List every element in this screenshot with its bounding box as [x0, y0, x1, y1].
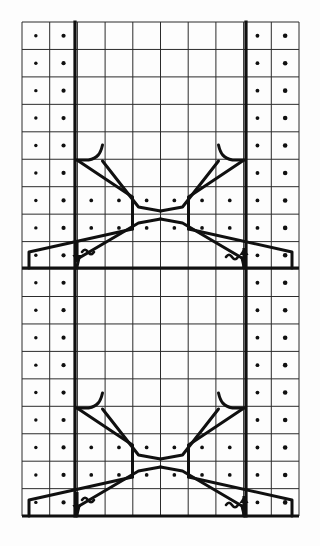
grid-dot-interior — [145, 446, 149, 450]
grid-dot-interior — [117, 473, 121, 477]
grid-dot — [256, 473, 260, 477]
grid-dot — [283, 473, 288, 478]
grid-dot — [256, 500, 260, 504]
grid-dot — [283, 171, 288, 176]
grid-dot — [256, 61, 260, 65]
grid-dot — [61, 363, 65, 367]
grid-dot-interior — [145, 473, 149, 477]
grid-dot — [61, 500, 65, 504]
grid-dot — [34, 254, 37, 257]
grid-dot — [256, 446, 260, 450]
grid-dot — [61, 390, 65, 394]
grid-dot-interior — [200, 473, 204, 477]
grid-dot — [283, 226, 288, 231]
grid-dot — [34, 34, 37, 37]
grid-dot — [61, 336, 65, 340]
grid-dot — [256, 34, 260, 38]
grid-dot — [34, 391, 37, 394]
grid-dot — [34, 418, 37, 421]
grid-dot-interior — [117, 446, 121, 450]
grid-dot-interior — [89, 226, 93, 230]
grid-dot — [256, 391, 260, 395]
grid-dot-interior — [145, 199, 149, 203]
grid-dot — [61, 281, 65, 285]
grid-dot — [283, 33, 288, 38]
grid-dot — [256, 171, 260, 175]
grid-dot — [61, 308, 65, 312]
grid-dot — [61, 418, 65, 422]
grid-dot — [256, 199, 260, 203]
grid-dot — [256, 89, 260, 93]
figure-container — [0, 0, 320, 546]
grid-bowtie-figure — [0, 0, 320, 546]
grid-dot — [34, 226, 37, 229]
grid-dot — [61, 61, 65, 65]
grid-dot — [34, 281, 37, 284]
grid-dot-interior — [117, 226, 121, 230]
grid-dot-interior — [89, 446, 93, 450]
grid-dot — [256, 144, 260, 148]
grid-dot — [34, 501, 37, 504]
grid-dot — [256, 116, 260, 120]
grid-dot — [283, 280, 288, 285]
grid-dot — [256, 308, 260, 312]
grid-dot — [61, 116, 65, 120]
grid-dot — [283, 418, 288, 423]
grid-dot-interior — [228, 226, 232, 230]
grid-dot — [61, 473, 65, 477]
grid-dot — [34, 144, 37, 147]
grid-dot — [34, 473, 37, 476]
grid-dot-interior — [228, 446, 232, 450]
grid-dot-interior — [173, 199, 177, 203]
grid-dot — [34, 199, 37, 202]
grid-dot — [283, 308, 288, 313]
grid-dot — [283, 88, 288, 93]
grid-dot — [34, 363, 37, 366]
grid-dot — [283, 335, 288, 340]
grid-dot-interior — [173, 226, 177, 230]
grid-dot — [61, 143, 65, 147]
grid-dot — [256, 336, 260, 340]
grid-dot — [61, 253, 65, 257]
grid-dot — [34, 171, 37, 174]
grid-dot-interior — [89, 199, 93, 203]
grid-dot — [256, 226, 260, 230]
grid-dot — [256, 281, 260, 285]
grid-dot — [283, 445, 288, 450]
grid-dot — [34, 116, 37, 119]
grid-dot — [34, 446, 37, 449]
grid-dot — [283, 500, 288, 505]
grid-dot — [61, 34, 65, 38]
grid-dot — [61, 198, 65, 202]
grid-dot-interior — [228, 473, 232, 477]
grid-dot — [283, 61, 288, 66]
grid-dot — [61, 171, 65, 175]
grid-dot — [283, 198, 288, 203]
grid-dot-interior — [173, 473, 177, 477]
grid-dot-interior — [200, 199, 204, 203]
grid-dot — [256, 418, 260, 422]
grid-dot — [34, 336, 37, 339]
grid-dot — [283, 116, 288, 121]
grid-dot-interior — [200, 226, 204, 230]
grid-dot — [283, 390, 288, 395]
grid-dot — [256, 253, 260, 257]
grid-dot — [61, 445, 65, 449]
grid-dot — [34, 61, 37, 64]
grid-dot — [283, 363, 288, 368]
grid-dot — [34, 309, 37, 312]
grid-dot — [61, 89, 65, 93]
grid-dot — [283, 143, 288, 148]
grid-dot-interior — [228, 199, 232, 203]
grid-dot — [34, 89, 37, 92]
grid-dot-interior — [200, 446, 204, 450]
grid-dot — [283, 253, 288, 258]
grid-dot-interior — [145, 226, 149, 230]
grid-dot — [256, 363, 260, 367]
grid-dot-interior — [117, 199, 121, 203]
grid-dot-interior — [173, 446, 177, 450]
grid-dot — [61, 226, 65, 230]
grid-dot-interior — [89, 473, 93, 477]
